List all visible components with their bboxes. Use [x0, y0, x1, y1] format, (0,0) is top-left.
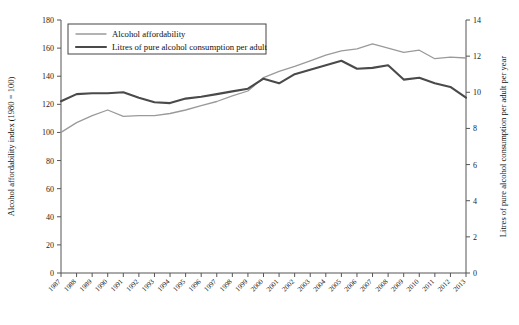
left-axis-tick-label: 0: [50, 269, 54, 278]
left-axis-tick-label: 180: [42, 16, 54, 25]
x-axis-tick-label: 1993: [140, 277, 156, 293]
x-axis-tick-label: 2009: [390, 277, 406, 293]
x-axis-tick-label: 1995: [171, 277, 187, 293]
right-axis-tick-label: 2: [473, 233, 477, 242]
x-axis-tick-label: 2005: [327, 277, 343, 293]
x-axis-tick-label: 2002: [281, 277, 297, 293]
x-axis-tick-label: 2011: [421, 277, 437, 293]
x-axis-tick-label: 1998: [218, 277, 234, 293]
right-axis-tick-label: 6: [473, 161, 477, 170]
left-axis-tick-label: 80: [46, 157, 54, 166]
left-axis-title: Alcohol affordability index (1980 = 100): [6, 77, 16, 217]
left-axis-tick-label: 40: [46, 213, 54, 222]
right-axis-tick-label: 4: [473, 197, 477, 206]
left-axis-tick-label: 100: [42, 128, 54, 137]
x-axis-tick-label: 1994: [156, 277, 172, 293]
legend-label-0: Alcohol affordability: [112, 29, 186, 39]
x-axis-tick-label: 2010: [405, 277, 421, 293]
left-axis-tick-label: 60: [46, 185, 54, 194]
x-axis-tick-label: 2008: [374, 277, 390, 293]
x-axis-tick-label: 2001: [265, 277, 281, 293]
x-axis-tick-label: 1990: [94, 277, 110, 293]
right-axis-tick-label: 8: [473, 124, 477, 133]
right-axis-tick-label: 0: [473, 269, 477, 278]
x-axis-tick-label: 1987: [47, 277, 63, 293]
right-axis-tick-label: 12: [473, 52, 481, 61]
x-axis-tick-label: 2007: [358, 277, 374, 293]
left-axis-tick-label: 160: [42, 44, 54, 53]
x-axis-tick-label: 2004: [312, 277, 328, 293]
series-line-alcohol-affordability: [61, 44, 466, 132]
x-axis-tick-label: 1988: [62, 277, 78, 293]
x-axis-tick-label: 2012: [436, 277, 452, 293]
line-chart-canvas: 0204060801001201401601800246810121419871…: [0, 0, 519, 325]
left-axis-tick-label: 20: [46, 241, 54, 250]
chart-figure: 0204060801001201401601800246810121419871…: [0, 0, 519, 325]
left-axis-tick-label: 120: [42, 100, 54, 109]
x-axis-tick-label: 2000: [249, 277, 265, 293]
right-axis-title: Litres of pure alcohol consumption per a…: [498, 56, 508, 237]
right-axis-tick-label: 10: [473, 88, 481, 97]
x-axis-tick-label: 2003: [296, 277, 312, 293]
x-axis-tick-label: 1992: [125, 277, 141, 293]
x-axis-tick-label: 1997: [203, 277, 219, 293]
right-axis-tick-label: 14: [473, 16, 481, 25]
x-axis-tick-label: 2013: [452, 277, 468, 293]
x-axis-tick-label: 1996: [187, 277, 203, 293]
left-axis-tick-label: 140: [42, 72, 54, 81]
x-axis-tick-label: 2006: [343, 277, 359, 293]
x-axis-tick-label: 1991: [109, 277, 125, 293]
legend-label-1: Litres of pure alcohol consumption per a…: [112, 42, 267, 52]
series-line-alcohol-consumption: [61, 61, 466, 103]
x-axis-tick-label: 1989: [78, 277, 94, 293]
x-axis-tick-label: 1999: [234, 277, 250, 293]
